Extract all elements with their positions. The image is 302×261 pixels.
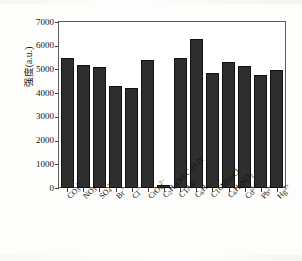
y-tick-label: 5000	[18, 65, 54, 74]
bar	[77, 65, 90, 188]
bar	[270, 70, 283, 188]
y-tick-label: 0	[18, 184, 54, 193]
bar	[125, 88, 138, 188]
bar	[141, 60, 154, 188]
y-tick-mark	[55, 188, 59, 189]
y-tick-label: 4000	[18, 89, 54, 98]
bar	[206, 73, 219, 188]
bar	[61, 58, 74, 188]
bar	[109, 86, 122, 188]
bar	[254, 75, 267, 188]
bar-chart: 强度(a.u.) 01000200030004000500060007000 C…	[0, 0, 302, 261]
y-tick-label: 1000	[18, 160, 54, 169]
y-tick-label: 7000	[18, 18, 54, 27]
bar	[238, 66, 251, 188]
bar	[93, 67, 106, 188]
bar-series	[59, 22, 285, 188]
y-tick-label: 6000	[18, 41, 54, 50]
y-tick-label: 3000	[18, 112, 54, 121]
y-tick-label: 2000	[18, 136, 54, 145]
